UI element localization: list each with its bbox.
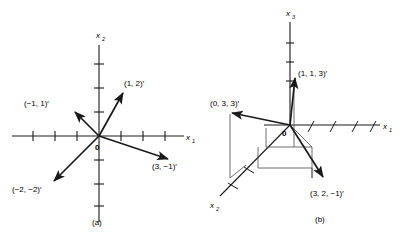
label-vector-1-1-3: (1, 1, 3)′ — [298, 69, 328, 78]
label-vector-n1-1: (−1, 1)′ — [24, 99, 49, 108]
label-vector-3-2-n1: (3, 2, −1)′ — [310, 189, 344, 198]
panel-b-projection-lines — [230, 82, 312, 178]
x2-axis-line — [220, 125, 290, 196]
panel-a-2d-plot: x 1 x 2 0 (1, 2)′ (−1, 1)′ (3, −1)′ (−2,… — [0, 0, 203, 240]
vector-1-2 — [99, 93, 123, 136]
panel-b-axes — [220, 22, 380, 196]
vector-3-n1 — [99, 136, 168, 159]
vector-n1-1 — [75, 112, 99, 136]
panel-b-caption: (b) — [315, 215, 325, 224]
panel-b-x2-axis-label: x — [209, 201, 215, 210]
panel-b-3d-plot: x 3 x 1 x 2 0 (1, 1, 3)′ (0, 3, 3)′ (3, … — [202, 0, 405, 240]
panel-a-x1-axis-subscript: 1 — [192, 138, 195, 144]
label-vector-n2-n2: (−2, −2)′ — [12, 185, 42, 194]
label-vector-3-n1: (3, −1)′ — [152, 162, 177, 171]
panel-b-x2-axis-subscript: 2 — [215, 206, 219, 212]
panel-a-x2-axis-label: x — [95, 31, 101, 40]
panel-a-vectors — [54, 93, 168, 181]
panel-a-svg: x 1 x 2 0 (1, 2)′ (−1, 1)′ (3, −1)′ (−2,… — [0, 0, 203, 240]
panel-b-vectors — [232, 78, 323, 177]
panel-b-x3-axis-label: x — [285, 9, 291, 18]
label-vector-1-2: (1, 2)′ — [124, 79, 145, 88]
label-vector-0-3-3: (0, 3, 3)′ — [210, 99, 240, 108]
vector-n2-n2 — [54, 136, 99, 181]
panel-a-origin-label: 0 — [95, 143, 100, 152]
panel-a-x2-axis-subscript: 2 — [101, 36, 105, 42]
panel-b-x1-axis-subscript: 1 — [389, 127, 392, 133]
panel-a-caption: (a) — [92, 218, 102, 227]
panel-b-x1-axis-label: x — [382, 122, 388, 131]
x1-axis-ticks — [308, 121, 376, 132]
panel-b-x3-axis-subscript: 3 — [292, 14, 296, 20]
figure-container: x 1 x 2 0 (1, 2)′ (−1, 1)′ (3, −1)′ (−2,… — [0, 0, 405, 240]
x2-axis-ticks — [228, 167, 254, 189]
vector-3-2-n1 — [290, 125, 323, 177]
panel-a-axes — [12, 45, 184, 222]
panel-b-svg: x 3 x 1 x 2 0 (1, 1, 3)′ (0, 3, 3)′ (3, … — [202, 0, 405, 240]
panel-a-x1-axis-label: x — [185, 133, 191, 142]
vector-0-3-3 — [232, 113, 290, 125]
panel-b-origin-label: 0 — [282, 129, 287, 138]
